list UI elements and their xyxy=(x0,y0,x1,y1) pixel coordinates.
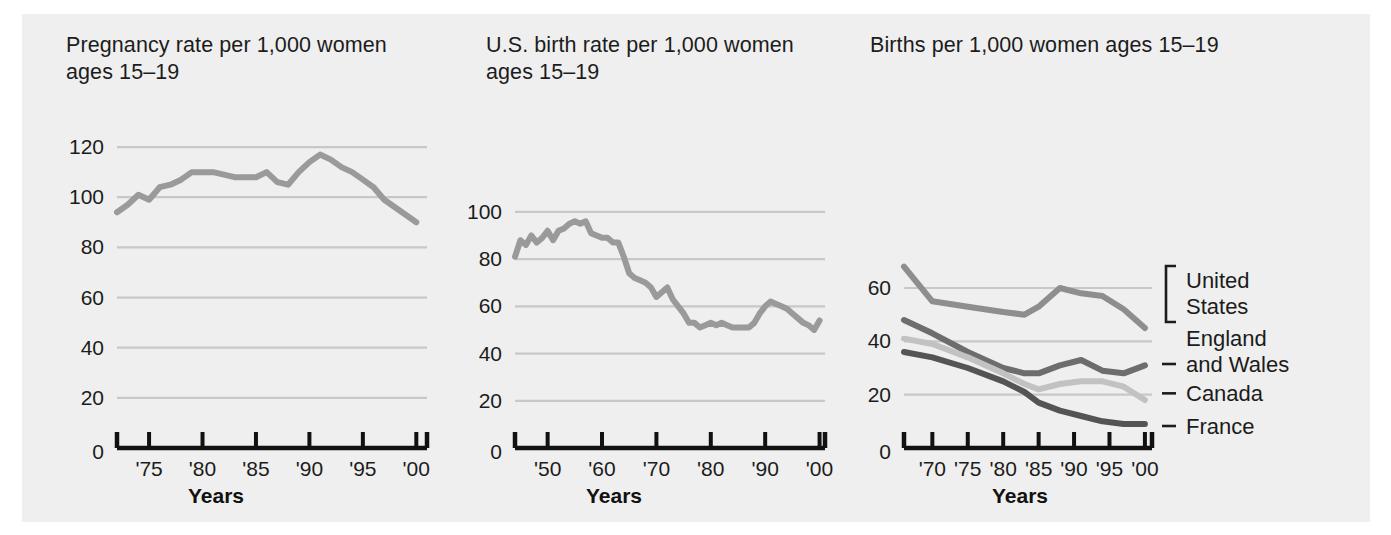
y-tick-label: 80 xyxy=(81,235,104,258)
x-tick-label: '60 xyxy=(588,457,615,480)
data-line xyxy=(904,352,1145,424)
y-tick-label: 100 xyxy=(69,185,104,208)
y-tick-label: 80 xyxy=(479,247,502,270)
y-tick-label: 0 xyxy=(879,440,891,463)
y-tick-label: 0 xyxy=(92,440,104,463)
x-axis-label-births-by-country: Years xyxy=(870,484,1170,508)
legend-label: and Wales xyxy=(1186,352,1289,377)
legend-label: United xyxy=(1186,268,1250,293)
y-tick-label: 100 xyxy=(467,200,502,223)
plot-area-births-by-country: 0204060'70'75'80'85'90'95'00UnitedStates… xyxy=(842,14,1370,522)
data-line xyxy=(904,267,1145,328)
x-tick-label: '70 xyxy=(643,457,670,480)
chart-pregnancy-rate: Pregnancy rate per 1,000 women ages 15–1… xyxy=(22,14,442,522)
x-tick-label: '90 xyxy=(296,457,323,480)
x-tick-label: '75 xyxy=(954,457,981,480)
y-tick-label: 20 xyxy=(868,383,891,406)
legend-label: France xyxy=(1186,414,1254,439)
x-tick-label: '95 xyxy=(1096,457,1123,480)
chart-births-by-country: Births per 1,000 women ages 15–19 020406… xyxy=(842,14,1370,522)
data-line xyxy=(117,155,416,223)
x-tick-label: '00 xyxy=(403,457,430,480)
plot-area-pregnancy-rate: 020406080100120'75'80'85'90'95'00 xyxy=(22,14,442,522)
x-tick-label: '95 xyxy=(349,457,376,480)
y-tick-label: 40 xyxy=(81,336,104,359)
y-tick-label: 20 xyxy=(479,389,502,412)
plot-area-us-birth-rate: 020406080100'50'60'70'80'90'00 xyxy=(442,14,842,522)
y-tick-label: 60 xyxy=(868,276,891,299)
chart-us-birth-rate: U.S. birth rate per 1,000 women ages 15–… xyxy=(442,14,842,522)
x-tick-label: '00 xyxy=(806,457,833,480)
x-tick-label: '50 xyxy=(534,457,561,480)
x-tick-label: '75 xyxy=(135,457,162,480)
x-axis-label-pregnancy-rate: Years xyxy=(66,484,366,508)
legend-bracket-icon xyxy=(1166,266,1176,322)
legend-label: England xyxy=(1186,326,1267,351)
y-tick-label: 20 xyxy=(81,386,104,409)
x-tick-label: '80 xyxy=(990,457,1017,480)
y-tick-label: 60 xyxy=(81,286,104,309)
x-tick-label: '00 xyxy=(1131,457,1158,480)
y-tick-label: 40 xyxy=(479,342,502,365)
y-tick-label: 60 xyxy=(479,294,502,317)
data-line xyxy=(515,221,820,330)
legend-label: States xyxy=(1186,294,1248,319)
x-tick-label: '80 xyxy=(697,457,724,480)
x-tick-label: '90 xyxy=(751,457,778,480)
x-axis-label-us-birth-rate: Years xyxy=(464,484,764,508)
legend-label: Canada xyxy=(1186,381,1264,406)
x-tick-label: '80 xyxy=(189,457,216,480)
x-tick-label: '85 xyxy=(242,457,269,480)
y-tick-label: 40 xyxy=(868,329,891,352)
x-tick-label: '90 xyxy=(1060,457,1087,480)
x-tick-label: '70 xyxy=(919,457,946,480)
figure-panel: Pregnancy rate per 1,000 women ages 15–1… xyxy=(22,14,1370,522)
y-tick-label: 0 xyxy=(490,440,502,463)
x-tick-label: '85 xyxy=(1025,457,1052,480)
y-tick-label: 120 xyxy=(69,135,104,158)
